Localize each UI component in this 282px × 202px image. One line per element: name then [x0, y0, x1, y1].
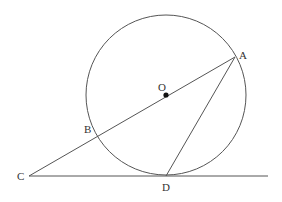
label-o: O [158, 82, 166, 93]
center-point-o [163, 92, 168, 97]
label-b: B [84, 124, 91, 135]
geometry-diagram: A B C D O [0, 0, 282, 202]
chord-ad [166, 57, 235, 176]
label-c: C [17, 171, 24, 182]
label-d: D [162, 182, 170, 193]
diagram-canvas [0, 0, 282, 202]
label-a: A [239, 50, 247, 61]
secant-line-ca [29, 57, 235, 176]
